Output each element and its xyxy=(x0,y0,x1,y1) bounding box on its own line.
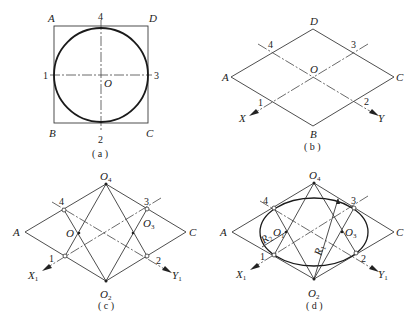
point-4 xyxy=(272,206,276,210)
label-1: 1 xyxy=(49,253,54,264)
point-2 xyxy=(354,251,358,255)
line-o2-3 xyxy=(314,208,354,279)
label-C: C xyxy=(396,226,404,238)
point-1 xyxy=(63,254,67,258)
point-o3 xyxy=(132,232,135,235)
label-3: 3 xyxy=(154,70,159,81)
caption-a: ( a ) xyxy=(92,148,108,160)
label-3: 3 xyxy=(351,39,356,50)
label-4: 4 xyxy=(268,39,273,50)
label-4: 4 xyxy=(98,11,103,22)
label-C: C xyxy=(146,127,154,139)
label-Y1: Y1 xyxy=(172,269,182,283)
caption-b: ( b ) xyxy=(304,141,321,153)
figure-canvas: A D B C 4 1 3 2 O ( a ) D A C B O 4 3 1 … xyxy=(0,0,413,317)
caption-d: ( d ) xyxy=(306,300,323,312)
panel-a: A D B C 4 1 3 2 O ( a ) xyxy=(43,11,159,160)
point-o3 xyxy=(341,231,344,234)
caption-c: ( c ) xyxy=(98,300,114,312)
label-B: B xyxy=(310,128,317,140)
label-Y: Y xyxy=(378,112,386,124)
label-3: 3 xyxy=(144,196,149,207)
label-O: O xyxy=(310,63,318,75)
label-A: A xyxy=(219,226,227,238)
point-2 xyxy=(145,254,149,258)
label-4: 4 xyxy=(263,195,268,206)
label-1: 1 xyxy=(43,70,48,81)
label-A: A xyxy=(221,71,229,83)
label-O4: O4 xyxy=(100,170,112,184)
point-3 xyxy=(352,206,356,210)
label-O: O xyxy=(66,227,74,239)
panel-d: O4 O2 O1 O3 A C 4 3 1 2 R2 R1 X1 Y1 ( d … xyxy=(219,169,404,312)
point-1 xyxy=(272,253,276,257)
arrow-x-icon xyxy=(249,109,259,116)
point-o4 xyxy=(313,182,316,185)
label-1: 1 xyxy=(258,97,263,108)
point-o2 xyxy=(105,280,108,283)
label-X: X xyxy=(238,112,247,124)
label-O3: O3 xyxy=(345,226,357,240)
label-2: 2 xyxy=(361,253,366,264)
arrow-y1-icon xyxy=(162,266,172,273)
point-3 xyxy=(145,207,149,211)
label-X1: X1 xyxy=(235,268,247,282)
line-o4-1 xyxy=(65,184,106,256)
label-3: 3 xyxy=(351,195,356,206)
label-2: 2 xyxy=(156,255,161,266)
label-O: O xyxy=(104,77,112,89)
point-o2 xyxy=(313,278,316,281)
label-A: A xyxy=(12,226,20,238)
label-D: D xyxy=(309,15,318,27)
label-C: C xyxy=(396,71,404,83)
label-A: A xyxy=(47,12,55,24)
label-O3: O3 xyxy=(143,217,155,231)
label-R1: R1 xyxy=(311,243,328,258)
label-4: 4 xyxy=(59,196,64,207)
point-4 xyxy=(62,208,66,212)
label-O2: O2 xyxy=(308,287,320,301)
label-Y1: Y1 xyxy=(378,268,388,282)
label-C: C xyxy=(189,226,197,238)
label-2: 2 xyxy=(364,96,369,107)
label-X1: X1 xyxy=(27,269,39,283)
label-1: 1 xyxy=(260,251,265,262)
panel-b: D A C B O 4 3 1 2 X Y ( b ) xyxy=(221,15,404,153)
label-2: 2 xyxy=(98,134,103,145)
label-O4: O4 xyxy=(309,169,321,183)
point-o-left xyxy=(78,232,81,235)
label-D: D xyxy=(148,12,157,24)
panel-c: O4 O2 O O3 A C 4 3 1 2 X1 Y1 ( c ) xyxy=(12,170,197,312)
label-B: B xyxy=(49,127,56,139)
label-O1: O1 xyxy=(273,226,285,240)
point-o1 xyxy=(285,231,288,234)
